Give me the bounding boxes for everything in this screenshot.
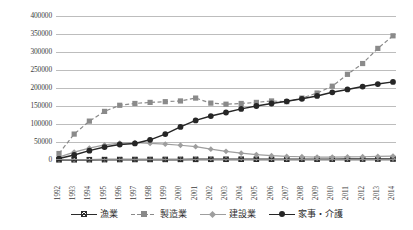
data-point (193, 95, 198, 100)
legend-marker-icon (200, 209, 226, 219)
data-point (223, 148, 229, 154)
series-1 (56, 33, 395, 156)
data-point (117, 142, 123, 148)
x-tick-label: 1997 (131, 186, 138, 200)
y-tick-label: 350000 (0, 30, 52, 37)
data-point (87, 119, 92, 124)
data-point (329, 89, 335, 95)
data-point (360, 61, 365, 66)
data-point (253, 103, 259, 109)
y-tick-label: 50000 (0, 138, 52, 145)
data-point (330, 84, 335, 89)
data-point (375, 81, 381, 87)
x-tick-label: 2009 (313, 186, 320, 200)
x-tick-label: 2011 (343, 186, 350, 200)
legend-marker-icon (131, 209, 157, 219)
data-point (72, 131, 77, 136)
data-point (132, 101, 137, 106)
series-line (59, 36, 393, 154)
chart-legend: 漁業製造業建設業家事・介護 (0, 203, 413, 225)
legend-label: 家事・介護 (298, 210, 343, 219)
data-point (117, 103, 122, 108)
x-tick-label: 1993 (70, 186, 77, 200)
data-point (178, 142, 184, 148)
data-point (162, 141, 168, 147)
y-axis: 4000003500003000002500002000001500001000… (0, 0, 52, 176)
data-point (208, 146, 214, 152)
y-tick-label: 250000 (0, 66, 52, 73)
data-point (345, 87, 351, 93)
data-point (390, 79, 396, 85)
data-point (239, 101, 244, 106)
data-point (375, 46, 380, 51)
y-tick-label: 100000 (0, 120, 52, 127)
data-point (345, 72, 350, 77)
x-tick-label: 2013 (374, 186, 381, 200)
y-tick-label: 0 (0, 156, 52, 163)
data-point (147, 137, 153, 143)
x-axis: 1992199319941995199619971998199920002001… (56, 161, 396, 199)
x-tick-label: 2014 (389, 186, 396, 200)
legend-label: 建設業 (229, 210, 256, 219)
x-tick-label: 2004 (237, 186, 244, 200)
data-point (223, 102, 228, 107)
y-tick-label: 300000 (0, 48, 52, 55)
legend-item[interactable]: 製造業 (131, 209, 187, 219)
series-layer (56, 16, 396, 160)
data-point (238, 150, 244, 156)
legend-label: 製造業 (160, 210, 187, 219)
x-tick-label: 2000 (176, 186, 183, 200)
x-tick-label: 2007 (283, 186, 290, 200)
data-point (132, 141, 138, 147)
data-point (178, 98, 183, 103)
data-point (102, 144, 108, 150)
x-tick-label: 2010 (328, 186, 335, 200)
x-tick-label: 1992 (55, 186, 62, 200)
data-point (284, 98, 290, 104)
data-point (163, 99, 168, 104)
x-tick-label: 2012 (358, 186, 365, 200)
data-point (269, 101, 275, 107)
data-point (360, 84, 366, 90)
data-point (86, 148, 92, 154)
data-point (223, 110, 229, 116)
data-point (147, 100, 152, 105)
data-point (102, 109, 107, 114)
x-tick-label: 1999 (161, 186, 168, 200)
data-point (238, 106, 244, 112)
x-tick-label: 1998 (146, 186, 153, 200)
x-tick-label: 2001 (191, 186, 198, 200)
y-tick-label: 200000 (0, 84, 52, 91)
x-tick-label: 1995 (100, 186, 107, 200)
data-point (208, 113, 214, 119)
x-tick-label: 1994 (85, 186, 92, 200)
line-chart: 4000003500003000002500002000001500001000… (0, 0, 413, 230)
y-tick-label: 150000 (0, 102, 52, 109)
data-point (193, 144, 199, 150)
x-tick-label: 2002 (207, 186, 214, 200)
x-tick-label: 2008 (298, 186, 305, 200)
legend-item[interactable]: 家事・介護 (269, 209, 343, 219)
y-tick-label: 400000 (0, 12, 52, 19)
data-point (299, 96, 305, 102)
x-axis-line (56, 159, 396, 160)
data-point (162, 131, 168, 137)
data-point (193, 118, 199, 124)
data-point (390, 33, 395, 38)
x-tick-label: 2003 (222, 186, 229, 200)
x-tick-label: 2005 (252, 186, 259, 200)
data-point (71, 152, 77, 158)
data-point (314, 93, 320, 99)
legend-item[interactable]: 建設業 (200, 209, 256, 219)
data-point (178, 124, 184, 130)
legend-marker-icon (71, 209, 97, 219)
legend-item[interactable]: 漁業 (71, 209, 118, 219)
x-tick-label: 1996 (116, 186, 123, 200)
data-point (208, 101, 213, 106)
plot-area (56, 16, 396, 160)
legend-marker-icon (269, 209, 295, 219)
series-line (59, 82, 393, 159)
x-tick-label: 2006 (267, 186, 274, 200)
legend-label: 漁業 (100, 210, 118, 219)
